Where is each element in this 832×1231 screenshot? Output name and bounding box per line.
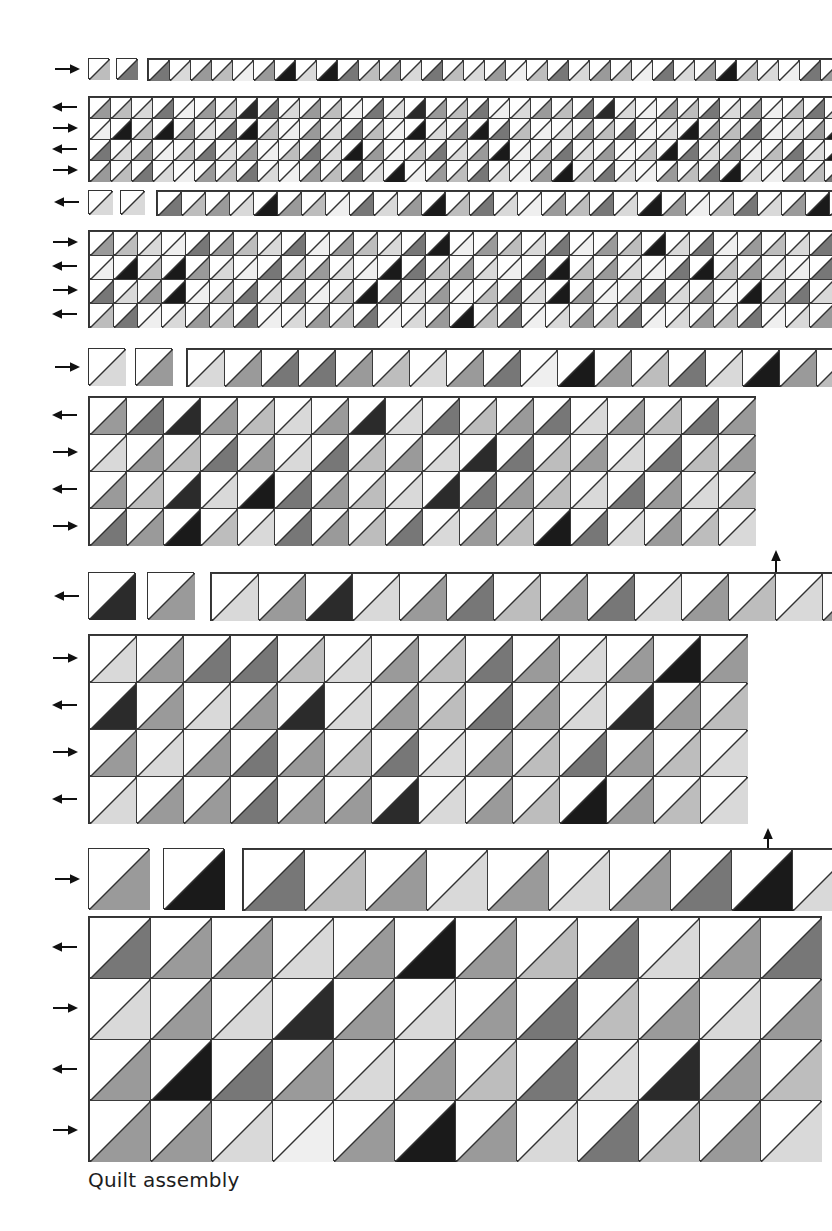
hst-cell — [211, 978, 272, 1039]
band-pieced-band-5 — [88, 916, 822, 1162]
hst-cell — [365, 849, 426, 910]
hst-cell — [670, 849, 731, 910]
hst-cell — [516, 917, 577, 978]
hst-cell — [333, 917, 394, 978]
band-row — [89, 978, 821, 1039]
hst-cell — [760, 1039, 821, 1100]
hst-cell — [760, 978, 821, 1039]
hst-cell — [272, 978, 333, 1039]
hst-cell — [89, 1039, 150, 1100]
hst-cell — [333, 978, 394, 1039]
hst-cell — [699, 1039, 760, 1100]
quilt-assembly-diagram: Quilt assembly — [0, 0, 832, 1231]
hst-cell — [548, 849, 609, 910]
hst-cell — [89, 1100, 150, 1161]
hst-cell — [150, 1039, 211, 1100]
hst-cell — [150, 978, 211, 1039]
hst-cell — [426, 849, 487, 910]
hst-cell — [760, 1100, 821, 1161]
pressing-arrow-right — [52, 1124, 78, 1136]
hst-cell — [455, 1100, 516, 1161]
unit-corner-unit-b — [163, 848, 224, 909]
hst-cell — [516, 1039, 577, 1100]
band-row — [89, 1100, 821, 1161]
hst-cell — [760, 917, 821, 978]
hst-cell — [516, 1100, 577, 1161]
hst-cell — [609, 849, 670, 910]
strip-fifth-border-strip — [88, 848, 832, 911]
hst-cell — [699, 917, 760, 978]
pressing-arrow-right — [52, 1002, 78, 1014]
hst-cell — [455, 917, 516, 978]
hst-cell — [638, 978, 699, 1039]
pressing-arrow-left — [52, 941, 78, 953]
hst-cell — [516, 978, 577, 1039]
hst-cell — [487, 849, 548, 910]
hst-cell — [731, 849, 792, 910]
hst-cell — [394, 978, 455, 1039]
joined-strip — [242, 848, 832, 911]
quilt-section-border-round-5 — [0, 0, 832, 1231]
hst-cell — [792, 849, 832, 910]
figure-caption: Quilt assembly — [88, 1168, 240, 1192]
hst-cell — [638, 1039, 699, 1100]
hst-cell — [638, 917, 699, 978]
hst-cell — [89, 978, 150, 1039]
hst-cell — [333, 1039, 394, 1100]
hst-cell — [243, 849, 304, 910]
hst-cell — [394, 917, 455, 978]
hst-cell — [577, 917, 638, 978]
hst-cell — [394, 1100, 455, 1161]
pressing-arrow-right — [54, 873, 80, 885]
hst-cell — [211, 1100, 272, 1161]
hst-cell — [699, 978, 760, 1039]
band-row — [89, 917, 821, 978]
band-row — [89, 1039, 821, 1100]
hst-cell — [150, 917, 211, 978]
hst-cell — [394, 1039, 455, 1100]
hst-cell — [455, 978, 516, 1039]
hst-cell — [211, 1039, 272, 1100]
hst-cell — [272, 917, 333, 978]
hst-cell — [455, 1039, 516, 1100]
hst-cell — [699, 1100, 760, 1161]
hst-cell — [89, 917, 150, 978]
hst-cell — [304, 849, 365, 910]
hst-cell — [272, 1100, 333, 1161]
hst-cell — [577, 1100, 638, 1161]
hst-cell — [577, 978, 638, 1039]
strip-row — [243, 849, 832, 910]
hst-cell — [272, 1039, 333, 1100]
hst-cell — [638, 1100, 699, 1161]
pressing-arrow-left — [52, 1063, 78, 1075]
hst-cell — [577, 1039, 638, 1100]
unit-corner-unit-a — [88, 848, 149, 909]
hst-cell — [150, 1100, 211, 1161]
hst-cell — [333, 1100, 394, 1161]
hst-cell — [211, 917, 272, 978]
